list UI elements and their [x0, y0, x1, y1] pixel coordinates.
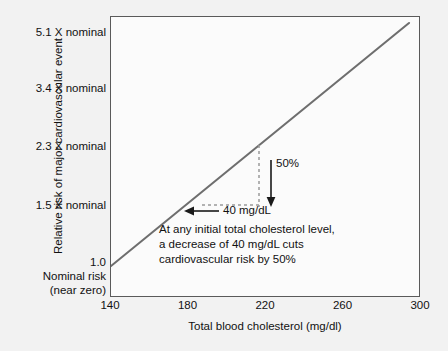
caption-line-3: cardiovascular risk by 50%	[159, 252, 296, 267]
fifty-percent-label: 50%	[276, 157, 299, 169]
forty-mgdl-arrow	[184, 207, 219, 216]
y-tick-label-1: 1.0	[90, 256, 106, 269]
y-tick-sublabel-nominal-risk: Nominal risk	[43, 270, 106, 283]
fifty-percent-arrow	[267, 160, 276, 207]
x-axis-tick-labels: 140 180 220 260 300	[0, 299, 448, 319]
y-tick-label-5: 5.1 X nominal	[36, 26, 106, 39]
plot-area: 50% 40 mg/dL At any initial total choles…	[110, 16, 420, 297]
plot-inner: 50% 40 mg/dL At any initial total choles…	[111, 17, 419, 296]
y-tick-label-4: 3.4 X nominal	[36, 82, 106, 95]
chart-figure: Relative risk of major cardiovascular ev…	[0, 0, 448, 351]
forty-mgdl-label: 40 mg/dL	[223, 204, 271, 216]
y-tick-sublabel-near-zero: (near zero)	[50, 284, 106, 297]
caption-line-1: At any initial total cholesterol level,	[159, 222, 335, 237]
y-tick-label-2: 1.5 X nominal	[36, 199, 106, 212]
caption-line-2: a decrease of 40 mg/dL cuts	[159, 237, 304, 252]
x-axis-title: Total blood cholesterol (mg/dl)	[110, 320, 420, 332]
y-tick-label-3: 2.3 X nominal	[36, 140, 106, 153]
x-tick-label-220: 220	[255, 299, 274, 311]
x-tick-label-300: 300	[410, 299, 429, 311]
x-tick-label-180: 180	[178, 299, 197, 311]
x-tick-label-140: 140	[100, 299, 119, 311]
x-tick-label-260: 260	[333, 299, 352, 311]
